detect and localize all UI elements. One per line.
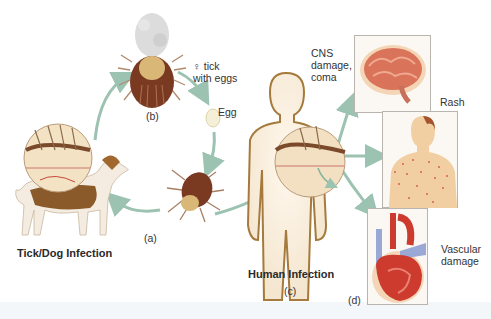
vascular-damage-label: Vascular damage	[441, 243, 481, 267]
female-tick-with-eggs	[118, 13, 186, 108]
human-silhouette	[248, 73, 345, 300]
rash-torso-icon	[383, 112, 459, 209]
dog-illustration	[16, 124, 129, 235]
rash-panel	[382, 111, 458, 208]
panel-label-b: (b)	[146, 110, 159, 122]
cns-damage-label: CNS damage, coma	[311, 47, 352, 83]
panel-label-a: (a)	[144, 232, 157, 244]
heart-panel	[367, 208, 428, 305]
human-infection-label: Human Infection	[248, 268, 334, 280]
brain-icon	[355, 36, 432, 114]
panel-label-d: (d)	[348, 294, 361, 306]
brain-panel	[354, 35, 431, 113]
female-tick-label: ♀ tick with eggs	[193, 60, 237, 84]
panel-label-c: (c)	[284, 285, 296, 297]
rash-label: Rash	[440, 96, 465, 108]
tick-dog-infection-label: Tick/Dog Infection	[17, 247, 112, 259]
egg-label: Egg	[218, 106, 237, 118]
female-symbol: ♀	[193, 60, 201, 72]
heart-icon	[368, 209, 429, 306]
